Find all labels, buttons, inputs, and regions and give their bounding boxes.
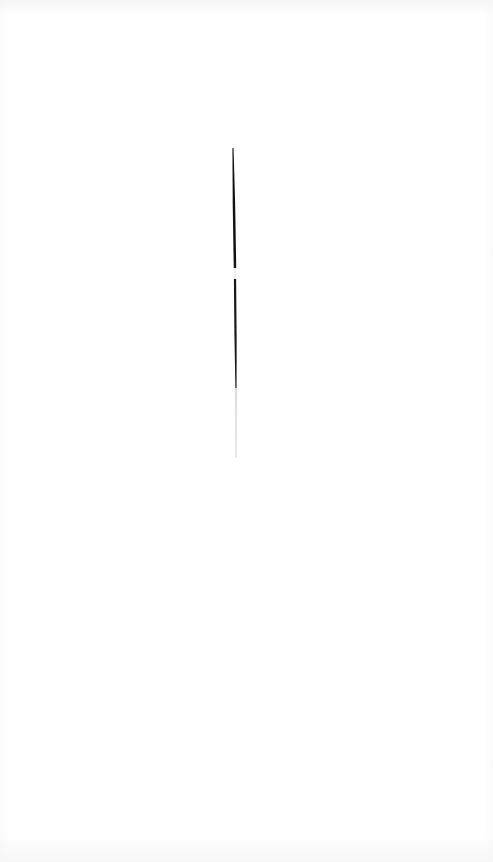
ink-stroke-canvas	[0, 0, 493, 862]
ink-segment-fading-tail-segment	[235, 388, 236, 458]
ink-segment-upper-dark-segment	[232, 148, 236, 268]
ink-segment-middle-dark-segment	[234, 279, 237, 388]
ink-segment-ink-break-gap	[234, 268, 236, 279]
scanned-page	[0, 0, 493, 862]
ink-stroke-group	[232, 148, 236, 458]
